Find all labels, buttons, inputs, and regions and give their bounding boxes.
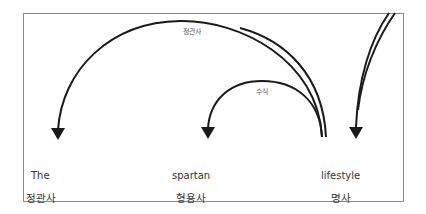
arc-label-determiner: 정관사 bbox=[183, 26, 201, 36]
pos-spartan: 형용사 bbox=[176, 190, 206, 205]
pos-the: 정관사 bbox=[26, 190, 56, 205]
dependency-arcs bbox=[0, 0, 426, 214]
word-spartan: spartan bbox=[172, 170, 210, 181]
arc-incoming bbox=[356, 13, 395, 127]
arrowhead-spartan-icon bbox=[201, 127, 215, 139]
arc-determiner bbox=[58, 21, 326, 137]
word-lifestyle: lifestyle bbox=[321, 170, 360, 181]
pos-lifestyle: 명사 bbox=[331, 190, 351, 205]
arc-label-modifier: 수식 bbox=[256, 86, 268, 96]
arrowhead-the-icon bbox=[51, 128, 65, 140]
arrowhead-lifestyle-icon bbox=[349, 127, 363, 139]
word-the: The bbox=[31, 170, 50, 181]
